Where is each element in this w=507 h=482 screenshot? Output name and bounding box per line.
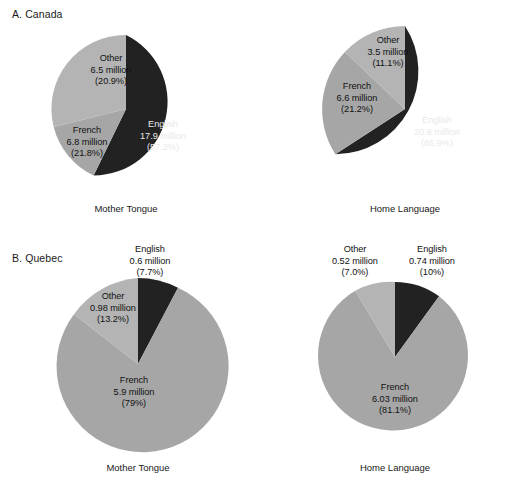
slice-label-other-quebec-mother-tongue: Other 0.98 million (13.2%)	[90, 291, 136, 326]
slice-label-percent: (11.1%)	[368, 58, 409, 70]
slice-label-english-quebec-home-language: English 0.74 million (10%)	[409, 244, 455, 279]
slice-label-french-canada-mother-tongue: French 6.8 million (21.8%)	[67, 125, 108, 160]
panel-a-title: A. Canada	[12, 8, 63, 20]
caption-canada-home-language: Home Language	[370, 203, 440, 214]
slice-label-english-canada-home-language: English 20.6 million (65.9%)	[414, 115, 460, 150]
slice-label-amount: 17.9 million	[140, 130, 186, 142]
caption-quebec-mother-tongue: Mother Tongue	[106, 462, 169, 473]
slice-label-french-quebec-mother-tongue: French 5.9 million (79%)	[114, 375, 155, 410]
slice-label-name: French	[67, 125, 108, 137]
slice-label-amount: 3.5 million	[368, 46, 409, 58]
slice-label-name: Other	[368, 35, 409, 47]
slice-label-english-canada-mother-tongue: English 17.9 million (57.2%)	[140, 119, 186, 154]
slice-label-percent: (7.0%)	[332, 267, 378, 279]
slice-label-amount: 6.03 million	[372, 393, 418, 405]
slice-label-percent: (21.8%)	[67, 148, 108, 160]
slice-label-name: French	[337, 81, 378, 93]
caption-quebec-home-language: Home Language	[360, 462, 430, 473]
slice-label-amount: 6.8 million	[67, 136, 108, 148]
slice-label-name: French	[372, 382, 418, 394]
slice-label-name: French	[114, 375, 155, 387]
caption-canada-mother-tongue: Mother Tongue	[94, 203, 157, 214]
slice-label-amount: 0.74 million	[409, 255, 455, 267]
slice-label-amount: 6.5 million	[91, 64, 132, 76]
slice-label-name: English	[130, 244, 171, 256]
panel-b-title: B. Quebec	[12, 252, 63, 264]
slice-label-name: English	[140, 119, 186, 131]
slice-label-name: Other	[90, 291, 136, 303]
slice-label-french-canada-home-language: French 6.6 million (21.2%)	[337, 81, 378, 116]
slice-label-percent: (21.2%)	[337, 104, 378, 116]
slice-label-english-quebec-mother-tongue: English 0.6 million (7.7%)	[130, 244, 171, 279]
pie-quebec-mother-tongue	[52, 278, 224, 450]
slice-label-percent: (13.2%)	[90, 314, 136, 326]
slice-label-percent: (79%)	[114, 398, 155, 410]
slice-label-percent: (57.2%)	[140, 142, 186, 154]
slice-label-amount: 0.98 million	[90, 302, 136, 314]
slice-label-french-quebec-home-language: French 6.03 million (81.1%)	[372, 382, 418, 417]
slice-label-amount: 0.6 million	[130, 255, 171, 267]
slice-label-percent: (81.1%)	[372, 405, 418, 417]
slice-label-percent: (65.9%)	[414, 138, 460, 150]
figure-language-pie-charts: A. Canada English 17.9 million (57.2%) F…	[0, 0, 507, 482]
slice-label-name: Other	[91, 53, 132, 65]
slice-label-other-quebec-home-language: Other 0.52 million (7.0%)	[332, 244, 378, 279]
slice-label-other-canada-mother-tongue: Other 6.5 million (20.9%)	[91, 53, 132, 88]
slice-label-name: English	[409, 244, 455, 256]
slice-label-amount: 20.6 million	[414, 126, 460, 138]
chart-quebec-mother-tongue	[52, 278, 224, 450]
slice-label-amount: 0.52 million	[332, 255, 378, 267]
slice-label-percent: (7.7%)	[130, 267, 171, 279]
slice-label-name: Other	[332, 244, 378, 256]
slice-label-name: English	[414, 115, 460, 127]
slice-label-percent: (20.9%)	[91, 76, 132, 88]
slice-label-amount: 5.9 million	[114, 386, 155, 398]
slice-label-other-canada-home-language: Other 3.5 million (11.1%)	[368, 35, 409, 70]
slice-label-percent: (10%)	[409, 267, 455, 279]
slice-label-amount: 6.6 million	[337, 92, 378, 104]
